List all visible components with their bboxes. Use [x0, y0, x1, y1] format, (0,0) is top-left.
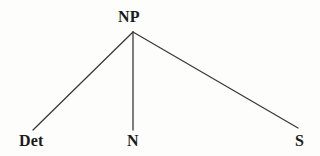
edge-np-s [133, 32, 298, 128]
syntax-tree-figure: NP Det N S [0, 0, 320, 156]
node-label-n: N [127, 133, 139, 149]
node-label-s: S [295, 133, 304, 149]
tree-edges-canvas [0, 0, 320, 156]
edge-np-det [33, 32, 133, 130]
node-label-np: NP [118, 9, 140, 25]
node-label-det: Det [19, 133, 44, 149]
